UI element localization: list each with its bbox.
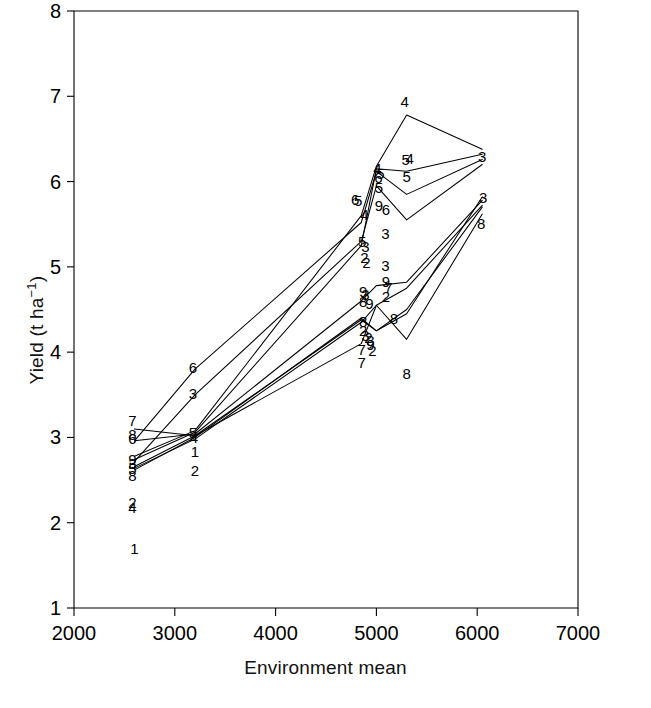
point-label: 5 [375, 179, 383, 196]
y-tick-label: 3 [50, 426, 61, 448]
point-label: 8 [128, 467, 136, 484]
plot-frame [74, 11, 578, 608]
series-line-3 [134, 165, 482, 462]
y-tick-label: 8 [50, 0, 61, 22]
series-line-1 [134, 207, 482, 470]
x-tick-label: 5000 [354, 622, 399, 644]
figure-root: 12345678200030004000500060007000 7869358… [0, 0, 651, 708]
point-label: 5 [402, 168, 410, 185]
point-label: 8 [402, 365, 410, 382]
point-label: 2 [382, 288, 390, 305]
series-line-8 [134, 214, 482, 468]
y-tick-label: 2 [50, 512, 61, 534]
point-label: 9 [365, 295, 373, 312]
tick-marks [67, 11, 578, 616]
point-labels: 7869358241635412654532293898923772326545… [128, 93, 487, 558]
y-tick-label: 7 [50, 85, 61, 107]
point-label: 8 [477, 215, 485, 232]
y-tick-label: 1 [50, 597, 61, 619]
point-label: 2 [362, 254, 370, 271]
x-axis-title-text: Environment mean [244, 657, 407, 679]
point-label: 1 [130, 540, 138, 557]
x-tick-label: 6000 [455, 622, 500, 644]
point-label: 3 [478, 148, 486, 165]
point-label: 4 [373, 160, 381, 177]
x-axis-title: Environment mean [0, 657, 651, 679]
point-label: 1 [191, 443, 199, 460]
series-lines [134, 115, 482, 470]
x-tick-label: 4000 [253, 622, 298, 644]
point-label: 3 [189, 385, 197, 402]
point-label: 4 [400, 93, 408, 110]
y-axis-title-exponent: −1 [24, 282, 39, 297]
point-label: 6 [128, 430, 136, 447]
y-axis-title-text: Yield (t ha−1) [26, 276, 47, 385]
point-label: 7 [358, 354, 366, 371]
point-label: 4 [360, 206, 368, 223]
point-label: 5 [401, 151, 409, 168]
series-line-5 [134, 154, 482, 459]
point-label: 4 [128, 499, 136, 516]
point-label: 8 [390, 310, 398, 327]
series-line-7 [134, 205, 482, 435]
y-tick-label: 4 [50, 341, 61, 363]
point-label: 2 [191, 462, 199, 479]
y-tick-label: 6 [50, 171, 61, 193]
series-line-2 [134, 197, 482, 467]
x-tick-label: 2000 [52, 622, 97, 644]
point-label: 3 [381, 225, 389, 242]
x-tick-label: 3000 [153, 622, 198, 644]
series-line-9 [134, 200, 482, 441]
point-label: 3 [479, 189, 487, 206]
point-label: 6 [189, 359, 197, 376]
y-axis-title: Yield (t ha−1) [24, 210, 48, 450]
point-label: 2 [368, 342, 376, 359]
chart-canvas: 12345678200030004000500060007000 7869358… [0, 0, 651, 708]
y-tick-label: 5 [50, 256, 61, 278]
x-tick-label: 7000 [556, 622, 601, 644]
point-label: 6 [382, 201, 390, 218]
